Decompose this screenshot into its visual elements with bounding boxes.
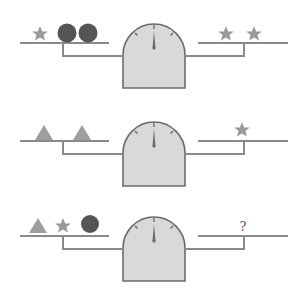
unknown-label: ? [240, 219, 247, 234]
circle-icon [58, 24, 77, 43]
circle-icon [81, 215, 99, 233]
triangle-icon [29, 218, 47, 233]
star-icon [246, 26, 262, 41]
star-icon [234, 122, 250, 137]
triangle-icon [35, 125, 53, 140]
scale-2 [20, 122, 288, 186]
circle-icon [79, 24, 98, 43]
balance-puzzle: ? [0, 0, 305, 303]
star-icon [55, 218, 71, 233]
scale-3: ? [20, 215, 288, 281]
star-icon [218, 26, 234, 41]
scale-body [20, 122, 288, 186]
triangle-icon [73, 125, 91, 140]
scale-1 [20, 24, 288, 89]
star-icon [32, 26, 48, 41]
